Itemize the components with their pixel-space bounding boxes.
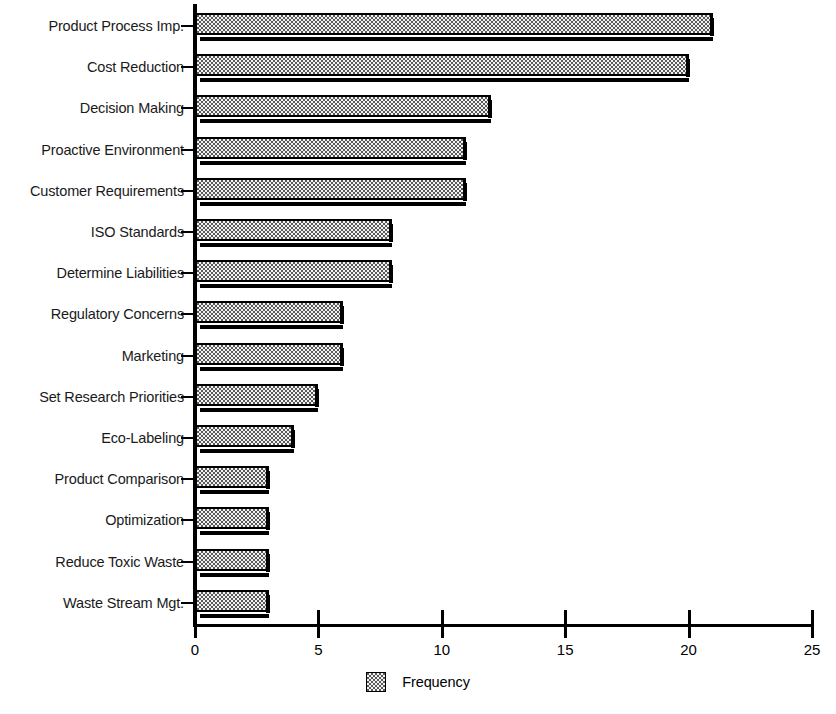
bar-row: Cost Reduction — [0, 47, 836, 87]
bar-wrapper — [195, 549, 269, 575]
category-label: Cost Reduction — [87, 59, 184, 75]
y-axis-tick — [181, 107, 194, 109]
category-label: Customer Requirements — [30, 183, 184, 199]
bar — [195, 13, 713, 35]
bar-row: Set Research Priorities — [0, 377, 836, 417]
bar-wrapper — [195, 137, 466, 163]
bar — [195, 260, 392, 282]
category-label: Waste Stream Mgt. — [63, 595, 184, 611]
category-label: Product Process Imp. — [48, 18, 184, 34]
bar-row: Customer Requirements — [0, 171, 836, 211]
y-axis-tick — [181, 272, 194, 274]
x-axis-tick-label: 0 — [191, 641, 199, 658]
category-label: Proactive Environment — [41, 142, 184, 158]
x-axis-tick-label: 10 — [433, 641, 450, 658]
x-axis-tick — [811, 610, 814, 638]
x-axis-tick — [317, 610, 320, 638]
category-label: Regulatory Concerns — [51, 306, 184, 322]
bar — [195, 301, 343, 323]
legend-swatch-frequency — [366, 672, 386, 692]
category-label: ISO Standards — [91, 224, 184, 240]
bar — [195, 54, 689, 76]
frequency-bar-chart: Product Process Imp.Cost ReductionDecisi… — [0, 0, 836, 714]
chart-legend: Frequency — [0, 672, 836, 692]
bar-row: Regulatory Concerns — [0, 294, 836, 334]
bar — [195, 466, 269, 488]
bar-wrapper — [195, 343, 343, 369]
bar-row: Proactive Environment — [0, 130, 836, 170]
bar-wrapper — [195, 507, 269, 533]
category-label: Decision Making — [80, 100, 184, 116]
x-axis-tick — [564, 610, 567, 638]
category-label: Marketing — [122, 348, 184, 364]
bar-wrapper — [195, 466, 269, 492]
y-axis-tick — [181, 313, 194, 315]
category-label: Set Research Priorities — [39, 389, 184, 405]
bar-row: Reduce Toxic Waste — [0, 542, 836, 582]
bar — [195, 219, 392, 241]
plot-area: Product Process Imp.Cost ReductionDecisi… — [0, 0, 836, 714]
bar-row: ISO Standards — [0, 212, 836, 252]
y-axis-tick — [181, 396, 194, 398]
bar — [195, 95, 491, 117]
bar-wrapper — [195, 590, 269, 616]
bar-row: Determine Liabilities — [0, 253, 836, 293]
bar-row: Waste Stream Mgt. — [0, 583, 836, 623]
bar — [195, 590, 269, 612]
x-axis-tick-label: 25 — [804, 641, 821, 658]
y-axis-tick — [181, 561, 194, 563]
x-axis-line — [193, 624, 814, 627]
category-label: Optimization — [105, 512, 184, 528]
bar-row: Product Comparison — [0, 459, 836, 499]
y-axis-tick — [181, 25, 194, 27]
bar-row: Product Process Imp. — [0, 6, 836, 46]
category-label: Eco-Labeling — [101, 430, 184, 446]
x-axis-tick-label: 15 — [557, 641, 574, 658]
bar-wrapper — [195, 260, 392, 286]
x-axis-tick — [441, 610, 444, 638]
bar — [195, 178, 466, 200]
category-label: Determine Liabilities — [57, 265, 184, 281]
x-axis-tick — [688, 610, 691, 638]
bar — [195, 384, 318, 406]
y-axis-tick — [181, 66, 194, 68]
bar-wrapper — [195, 178, 466, 204]
bar-row: Optimization — [0, 500, 836, 540]
bar-wrapper — [195, 425, 294, 451]
bar-wrapper — [195, 95, 491, 121]
y-axis-tick — [181, 190, 194, 192]
x-axis-tick-label: 20 — [680, 641, 697, 658]
legend-label-frequency: Frequency — [402, 674, 470, 690]
x-axis-tick — [194, 610, 197, 638]
bar-row: Decision Making — [0, 88, 836, 128]
bar-wrapper — [195, 54, 689, 80]
category-label: Product Comparison — [55, 471, 184, 487]
bar-row: Marketing — [0, 336, 836, 376]
bar-wrapper — [195, 384, 318, 410]
category-label: Reduce Toxic Waste — [55, 554, 184, 570]
y-axis-tick — [181, 478, 194, 480]
bar — [195, 507, 269, 529]
bar-wrapper — [195, 13, 713, 39]
x-axis-tick-label: 5 — [314, 641, 322, 658]
y-axis-tick — [181, 602, 194, 604]
y-axis-tick — [181, 149, 194, 151]
bar — [195, 425, 294, 447]
y-axis-tick — [181, 355, 194, 357]
y-axis-tick — [181, 437, 194, 439]
bar-row: Eco-Labeling — [0, 418, 836, 458]
bar-wrapper — [195, 301, 343, 327]
bar — [195, 137, 466, 159]
bar — [195, 343, 343, 365]
bar — [195, 549, 269, 571]
y-axis-tick — [181, 231, 194, 233]
y-axis-tick — [181, 519, 194, 521]
bar-wrapper — [195, 219, 392, 245]
